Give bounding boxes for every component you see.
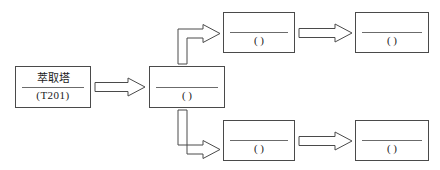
node-stage-2-top-label [183,73,191,87]
arrow-branch-bottom-1-to-2 [299,132,352,150]
arrow-branch-top-1-to-2 [299,24,352,42]
node-branch-top-1-top-label [255,18,263,32]
node-extraction-tower-bottom-label: (T201) [32,88,74,102]
node-branch-top-1-bottom-label: ( ) [250,33,268,47]
process-flow-diagram: 萃取塔 (T201) ( ) ( ) ( ) ( ) ( ) [0,0,440,170]
arrow-stage2-to-branch-bottom [178,110,220,159]
arrow-stage2-to-branch-top [178,25,220,65]
node-stage-2: ( ) [149,66,225,108]
node-branch-top-1: ( ) [223,12,295,53]
node-branch-bottom-2-bottom-label: ( ) [383,141,401,155]
node-branch-bottom-1-bottom-label: ( ) [250,141,268,155]
node-branch-bottom-1: ( ) [223,120,295,161]
node-branch-bottom-2: ( ) [355,120,429,161]
node-stage-2-bottom-label: ( ) [178,88,196,102]
node-extraction-tower-top-label: 萃取塔 [33,73,74,87]
node-branch-bottom-2-top-label [388,126,396,140]
node-branch-bottom-1-top-label [255,126,263,140]
node-branch-top-2-bottom-label: ( ) [383,33,401,47]
node-branch-top-2: ( ) [355,12,429,53]
arrow-tower-to-stage2 [95,78,145,96]
node-extraction-tower: 萃取塔 (T201) [15,66,91,108]
node-branch-top-2-top-label [388,18,396,32]
